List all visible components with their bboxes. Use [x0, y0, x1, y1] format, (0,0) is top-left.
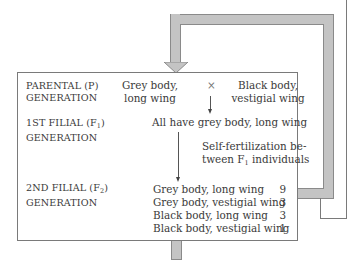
- label-line: GENERATION: [26, 132, 105, 144]
- right-edge-connector: [320, 218, 347, 219]
- pipe-joint: [324, 15, 333, 198]
- f2-ratio: 9: [276, 183, 286, 196]
- pipe-joint: [171, 15, 333, 24]
- label-line: GENERATION: [26, 197, 108, 209]
- pipe-joint: [171, 15, 180, 63]
- cross-symbol: ×: [207, 79, 216, 92]
- cross-to-f1-arrow-icon: [210, 96, 211, 110]
- f2-phenotype: Grey body, vestigial wing: [153, 196, 285, 209]
- parental-generation-label: PARENTAL (P) GENERATION: [26, 80, 99, 104]
- f2-generation-label: 2ND FILIAL (F2) GENERATION: [26, 182, 108, 209]
- parent-grey-long: Grey body, long wing: [116, 79, 184, 104]
- pipe-joint: [298, 189, 333, 198]
- label-line: GENERATION: [26, 92, 99, 104]
- f1-to-f2-arrow-icon: [178, 132, 179, 178]
- f2-phenotype: Black body, vestigial wing: [153, 222, 289, 235]
- f2-phenotype: Black body, long wing: [153, 209, 268, 222]
- f2-phenotype: Grey body, long wing: [153, 183, 264, 196]
- f2-ratio: 1: [276, 222, 286, 235]
- label-line: PARENTAL (P): [26, 80, 99, 92]
- right-edge-connector-vertical: [320, 198, 321, 219]
- label-line: 1ST FILIAL (F1): [26, 117, 105, 132]
- f2-ratio: 3: [276, 196, 286, 209]
- parent-black-vestigial: Black body, vestigial wing: [231, 79, 305, 104]
- outgoing-arrow-segment: [171, 240, 182, 260]
- f1-result: All have grey body, long wing: [152, 116, 307, 129]
- f1-generation-label: 1ST FILIAL (F1) GENERATION: [26, 117, 105, 144]
- label-line: 2ND FILIAL (F2): [26, 182, 108, 197]
- right-edge-line: [346, 0, 347, 218]
- self-fertilization-note: Self-fertilization be- tween F1 individu…: [202, 140, 309, 170]
- f2-ratio: 3: [276, 209, 286, 222]
